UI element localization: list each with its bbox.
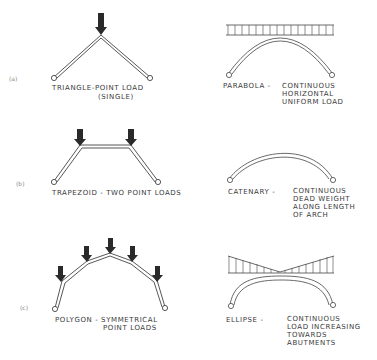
ellipse-caption-line: CONTINUOUS xyxy=(287,315,340,323)
catenary-caption-line: OF ARCH xyxy=(293,211,328,219)
point-load-arrow-icon xyxy=(152,266,163,282)
ellipse-caption-title: ELLIPSE - xyxy=(226,316,264,324)
row-label-c: (c) xyxy=(20,304,28,311)
point-load-arrow-icon xyxy=(105,238,116,254)
catenary-caption-line: DEAD WEIGHT xyxy=(293,195,350,203)
parabola-caption-line: HORIZONTAL xyxy=(282,90,334,98)
ellipse-increasing-load xyxy=(228,256,336,309)
polygon-arch xyxy=(52,253,167,312)
row-label-a: (a) xyxy=(9,75,17,82)
catenary-caption-line: ALONG LENGTH xyxy=(293,203,355,211)
ellipse-caption-line: TOWARDS xyxy=(287,331,327,339)
polygon-caption-sub: POINT LOADS xyxy=(103,324,157,332)
trapezoid-arch xyxy=(51,145,160,185)
catenary-arch xyxy=(227,153,335,182)
point-load-arrow-icon xyxy=(125,129,137,146)
parabola-caption-line: CONTINUOUS xyxy=(282,82,335,90)
catenary-caption-title: CATENARY - xyxy=(228,188,275,196)
row-label-b: (b) xyxy=(16,180,25,187)
polygon-caption: POLYGON - SYMMETRICAL xyxy=(55,316,158,324)
trapezoid-caption: TRAPEZOID - TWO POINT LOADS xyxy=(52,189,181,197)
parabola-caption-line: UNIFORM LOAD xyxy=(282,98,344,106)
ellipse-caption-line: LOAD INCREASING xyxy=(287,323,361,331)
point-load-arrow-icon xyxy=(74,129,86,146)
parabola-uniform-load xyxy=(226,25,335,78)
catenary-caption-line: CONTINUOUS xyxy=(293,187,346,195)
triangle-caption: TRIANGLE-POINT LOAD xyxy=(52,84,144,92)
arch-load-diagram xyxy=(0,0,377,360)
point-load-arrow-icon xyxy=(95,13,107,35)
triangle-arch xyxy=(51,35,152,81)
ellipse-caption-line: ABUTMENTS xyxy=(287,339,336,347)
parabola-caption-title: PARABOLA - xyxy=(223,82,271,90)
triangle-caption-sub: (SINGLE) xyxy=(98,93,134,101)
